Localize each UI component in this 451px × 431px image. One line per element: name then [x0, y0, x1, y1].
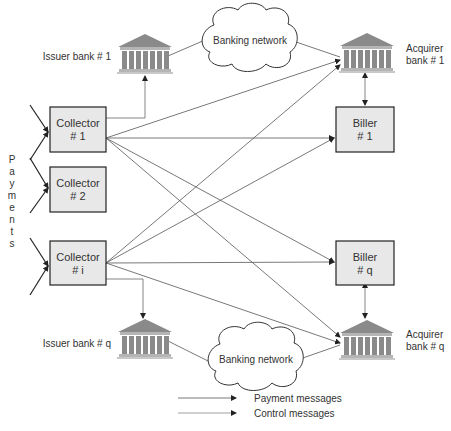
acquirer-bank-q-line2: bank # q: [406, 341, 444, 352]
collector-i-title: Collector: [56, 251, 100, 263]
collector-i: Collector # i: [50, 241, 106, 285]
legend-payment-label: Payment messages: [254, 393, 342, 404]
banking-network-cloud-top: Banking network: [202, 3, 297, 71]
payments-letter: y: [10, 178, 15, 189]
biller-1-num: # 1: [357, 130, 372, 142]
banking-network-cloud-bottom: Banking network: [208, 322, 303, 390]
issuer-bank-1: Issuer bank # 1: [43, 34, 173, 74]
collector-1-title: Collector: [56, 117, 100, 129]
payment-message-lines: [106, 60, 340, 343]
legend: Payment messages Control messages: [178, 393, 342, 419]
issuer-bank-1-label: Issuer bank # 1: [43, 51, 112, 62]
cloud-label-top: Banking network: [213, 35, 288, 46]
payments-letter: t: [11, 226, 14, 237]
legend-control-label: Control messages: [254, 408, 335, 419]
collector-2: Collector # 2: [50, 167, 106, 212]
payments-diagram: Banking network Banking network Issuer b…: [0, 0, 451, 431]
acquirer-bank-q-line1: Acquirer: [406, 329, 444, 340]
payments-letter: a: [9, 166, 15, 177]
acquirer-bank-q: Acquirer bank # q: [339, 320, 444, 360]
biller-1: Biller # 1: [336, 107, 394, 152]
cloud-label-bottom: Banking network: [219, 354, 294, 365]
bank-icon: [117, 319, 173, 359]
incoming-payment-arrows: [30, 105, 48, 295]
payments-letter: n: [9, 214, 15, 225]
payments-letter: s: [10, 238, 15, 249]
issuer-bank-q-label: Issuer bank # q: [43, 338, 111, 349]
biller-q-num: # q: [357, 264, 372, 276]
collector-2-title: Collector: [56, 177, 100, 189]
bank-icon: [117, 34, 173, 74]
network-links: [166, 40, 340, 362]
collector-2-num: # 2: [70, 190, 85, 202]
payments-letter: e: [9, 202, 15, 213]
acquirer-bank-1-line1: Acquirer: [406, 43, 444, 54]
payments-vertical-label: P a y m e n t s: [8, 154, 16, 249]
collector-i-num: # i: [72, 264, 84, 276]
bank-icon: [339, 320, 395, 360]
payments-letter: m: [8, 190, 16, 201]
biller-q: Biller # q: [336, 241, 394, 285]
payments-letter: P: [9, 154, 16, 165]
acquirer-bank-1-line2: bank # 1: [406, 55, 445, 66]
acquirer-bank-1: Acquirer bank # 1: [339, 33, 445, 73]
collector-1-num: # 1: [70, 130, 85, 142]
biller-1-title: Biller: [353, 117, 378, 129]
bank-icon: [339, 33, 395, 73]
biller-q-title: Biller: [353, 251, 378, 263]
control-message-lines: [106, 76, 365, 318]
issuer-bank-q: Issuer bank # q: [43, 319, 173, 359]
collector-1: Collector # 1: [50, 107, 106, 152]
